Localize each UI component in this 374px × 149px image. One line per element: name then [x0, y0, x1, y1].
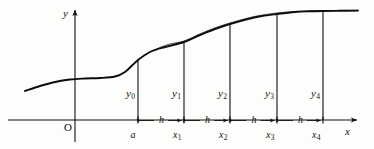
- interpolating-polynomial-curve: [138, 10, 358, 60]
- ordinate-label-y1-subscript: 1: [177, 92, 181, 101]
- ordinate-label-y2: y2: [218, 88, 227, 101]
- ordinate-label-y4: y4: [311, 88, 320, 101]
- abscissa-label-x1-subscript: 1: [177, 133, 181, 142]
- ordinate-label-y0: y0: [126, 88, 135, 101]
- abscissa-label-x4: x4: [312, 130, 321, 142]
- ordinate-label-y2-subscript: 2: [223, 92, 227, 101]
- abscissa-label-x4-subscript: 4: [316, 133, 320, 142]
- y-axis-label: y: [63, 8, 68, 19]
- interpolation-diagram: [0, 0, 374, 149]
- ordinate-lines-group: [138, 11, 323, 120]
- ordinate-label-y0-subscript: 0: [131, 92, 135, 101]
- step-label-0: h: [159, 115, 164, 125]
- step-label-3: h: [298, 115, 303, 125]
- ordinate-label-y1: y1: [172, 88, 181, 101]
- abscissa-label-a: a: [131, 130, 136, 140]
- step-label-1: h: [205, 115, 210, 125]
- abscissa-label-x2-subscript: 2: [223, 133, 227, 142]
- ordinate-label-y4-subscript: 4: [316, 92, 320, 101]
- step-label-2: h: [252, 115, 257, 125]
- abscissa-label-x3: x3: [266, 130, 275, 142]
- ordinate-label-y3-subscript: 3: [270, 92, 274, 101]
- abscissa-label-x3-subscript: 3: [270, 133, 274, 142]
- origin-label: O: [64, 122, 72, 133]
- x-axis-label: x: [345, 126, 350, 137]
- abscissa-label-x1: x1: [173, 130, 182, 142]
- ordinate-label-y3: y3: [265, 88, 274, 101]
- abscissa-label-x2: x2: [219, 130, 228, 142]
